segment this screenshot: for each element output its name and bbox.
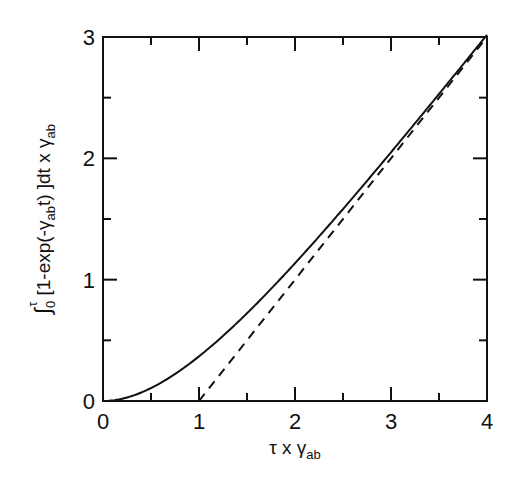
x-axis-label: τ x γab [269, 437, 321, 462]
x-tick-label: 1 [193, 409, 205, 434]
tick-labels: 012340123 [83, 25, 493, 434]
asymptote-dashed-line [199, 37, 487, 401]
y-tick-label: 2 [83, 146, 95, 171]
x-tick-label: 3 [385, 409, 397, 434]
x-tick-label: 2 [289, 409, 301, 434]
y-tick-label: 3 [83, 25, 95, 50]
axis-ticks [103, 37, 487, 401]
plot-frame [103, 37, 487, 401]
y-tick-label: 1 [83, 268, 95, 293]
chart: 012340123 τ x γab ∫0τ[1-exp(-γabt) ]dt x… [0, 0, 520, 487]
y-tick-label: 0 [83, 389, 95, 414]
integral-solid-curve [103, 35, 487, 401]
plot-border [103, 37, 487, 401]
series [103, 35, 487, 401]
y-axis-label: ∫0τ[1-exp(-γabt) ]dt x γab [25, 124, 58, 316]
x-tick-label: 0 [97, 409, 109, 434]
x-tick-label: 4 [481, 409, 493, 434]
